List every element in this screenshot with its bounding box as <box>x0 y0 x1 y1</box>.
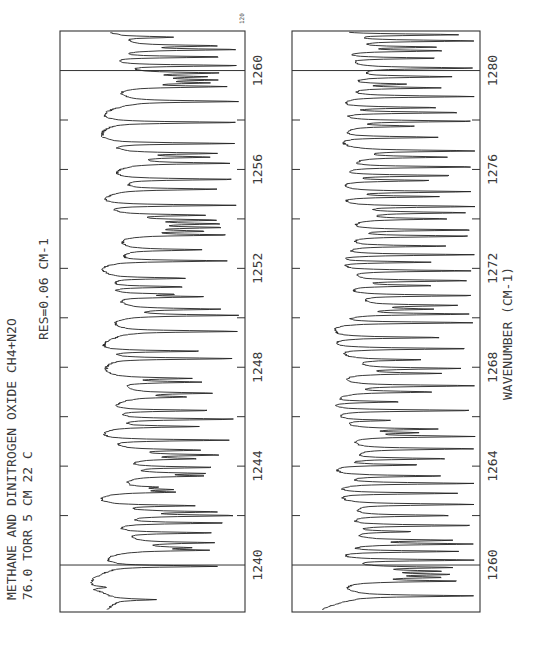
top-right-label: 120 <box>238 13 245 24</box>
tick-label: 1268 <box>485 352 500 383</box>
x-axis-label-group: WAVENUMBER (CM-1) <box>500 267 515 400</box>
tick-label: 1272 <box>485 253 500 284</box>
chart-title: METHANE AND DINITROGEN OXIDE CH4+N2O <box>4 318 19 600</box>
chart-resolution: RES=0.06 CM-1 <box>36 238 51 340</box>
panel-1: 124012441248125212561260 <box>60 31 265 612</box>
tick-label: 1280 <box>485 55 500 86</box>
tick-label: 1260 <box>250 55 265 86</box>
panel-2-ticks <box>292 71 480 565</box>
tick-label: 1248 <box>250 352 265 383</box>
x-axis-label: WAVENUMBER (CM-1) <box>500 267 515 400</box>
title-block: METHANE AND DINITROGEN OXIDE CH4+N2O 76.… <box>4 238 51 600</box>
tick-label: 1240 <box>250 549 265 580</box>
panel-2-spectrum-trace <box>322 32 475 609</box>
tick-label: 1260 <box>485 549 500 580</box>
chart-conditions: 76.0 TORR 5 CM 22 C <box>20 451 35 600</box>
tick-label: 1252 <box>250 253 265 284</box>
tick-label: 1264 <box>485 450 500 481</box>
tick-label: 1256 <box>250 154 265 185</box>
panel-1-frame <box>60 31 245 612</box>
top-right-label-group: 120 <box>238 13 245 24</box>
panel-1-tick-labels: 124012441248125212561260 <box>250 55 265 581</box>
panel-2: 126012641268127212761280 <box>292 31 500 612</box>
tick-label: 1276 <box>485 154 500 185</box>
spectrum-chart: METHANE AND DINITROGEN OXIDE CH4+N2O 76.… <box>0 0 538 649</box>
panel-1-spectrum-trace <box>91 32 239 609</box>
tick-label: 1244 <box>250 450 265 481</box>
panel-2-tick-labels: 126012641268127212761280 <box>485 55 500 581</box>
